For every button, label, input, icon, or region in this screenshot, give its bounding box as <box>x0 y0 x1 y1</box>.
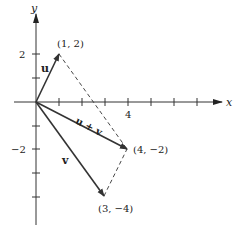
x-axis-label: x <box>226 96 233 109</box>
vector-diagram: x 4 y 2 −2 u v u + v (1, 2) (4, −2) (3, … <box>0 0 241 229</box>
vector-u-label: u <box>41 62 49 75</box>
point-label-1-2: (1, 2) <box>57 38 84 49</box>
y-axis: y 2 −2 <box>11 2 40 225</box>
x-tick-label-4: 4 <box>125 109 131 120</box>
point-label-4-neg2: (4, −2) <box>133 144 168 155</box>
vector-v-arrow <box>36 102 104 196</box>
vector-u-plus-v-label: u + v <box>74 115 105 138</box>
y-axis-label: y <box>30 2 38 15</box>
vector-v-label: v <box>61 154 69 167</box>
y-tick-label-2: 2 <box>19 49 25 60</box>
dashed-edge-v-to-sum <box>104 149 127 196</box>
point-label-3-neg4: (3, −4) <box>98 203 133 214</box>
y-tick-label-neg2: −2 <box>11 144 26 155</box>
